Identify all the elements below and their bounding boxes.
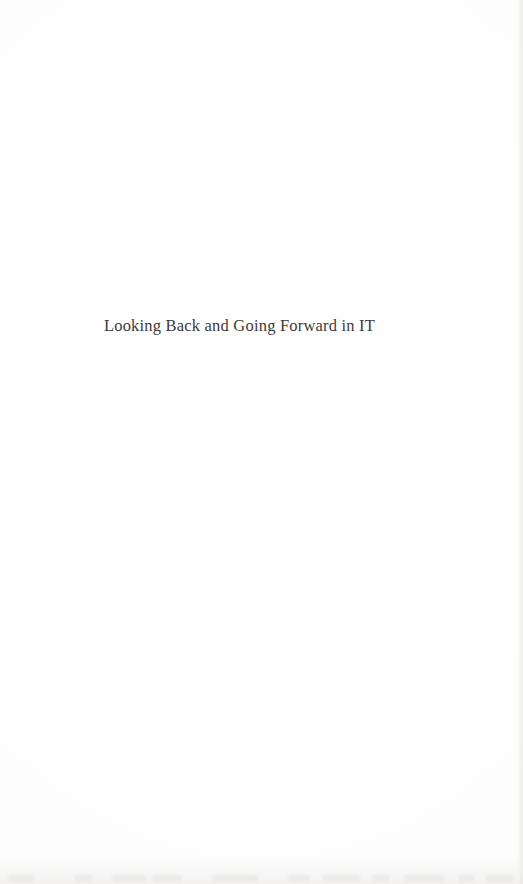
scan-edge-bottom (0, 858, 523, 884)
page-title: Looking Back and Going Forward in IT (0, 316, 523, 336)
bleed-through-artifacts (0, 864, 523, 884)
paper-texture (0, 0, 523, 884)
scanned-page: Looking Back and Going Forward in IT (0, 0, 523, 884)
scan-edge-right (517, 0, 523, 884)
